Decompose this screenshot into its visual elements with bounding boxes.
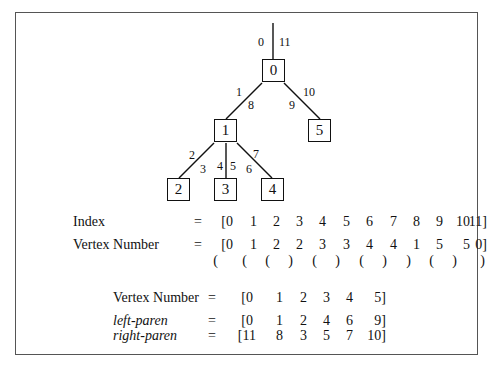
- tree-node-2: 2: [167, 178, 190, 201]
- right-paren-equals: =: [208, 328, 216, 344]
- vertex-cell: 0]: [447, 237, 487, 253]
- edge-label: 7: [253, 148, 259, 160]
- edge-label: 4: [217, 160, 223, 172]
- edge-label: 9: [289, 99, 295, 111]
- vertex-number-label: Vertex Number: [73, 237, 159, 253]
- edge-label: 5: [230, 160, 236, 172]
- edge-label: 8: [248, 99, 254, 111]
- right-paren-cell: 10]: [346, 328, 386, 344]
- edge-0-1: [226, 83, 262, 119]
- edge-label: 1: [236, 86, 242, 98]
- right-paren-label: right-paren: [113, 328, 177, 344]
- tree-node-0: 0: [262, 59, 285, 82]
- summary-vertex-cell: 5]: [346, 290, 386, 306]
- index-label: Index: [73, 214, 105, 230]
- edge-label: 11: [279, 36, 291, 48]
- edge-label: 2: [189, 149, 195, 161]
- tree-node-3: 3: [214, 178, 237, 201]
- index-cell: 11]: [447, 214, 487, 230]
- tree-node-1: 1: [214, 119, 237, 142]
- tree-node-5: 5: [308, 119, 331, 142]
- left-paren-label: left-paren: [113, 313, 168, 329]
- edge-label: 0: [258, 36, 264, 48]
- edge-label: 3: [200, 163, 206, 175]
- edge-label: 10: [303, 86, 315, 98]
- left-paren-cell: 9]: [346, 313, 386, 329]
- paren-cell: ): [445, 253, 485, 269]
- summary-vertex-label: Vertex Number: [113, 290, 199, 306]
- tree-node-4: 4: [261, 178, 284, 201]
- edge-label: 6: [246, 163, 252, 175]
- edge-1-2: [179, 143, 214, 178]
